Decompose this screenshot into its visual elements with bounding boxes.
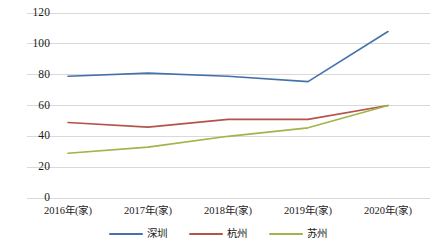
legend-item-深圳[interactable]: 深圳 xyxy=(109,229,167,240)
series-line-杭州 xyxy=(68,106,388,128)
legend-label: 苏州 xyxy=(307,229,327,240)
series-lines xyxy=(68,32,388,154)
chart-legend: 深圳杭州苏州 xyxy=(0,224,436,244)
x-axis-labels: 2016年(家)2017年(家)2018年(家)2019年(家)2020年(家) xyxy=(0,202,436,224)
legend-swatch-icon xyxy=(189,233,223,235)
legend-item-杭州[interactable]: 杭州 xyxy=(189,229,247,240)
y-axis-tick-label: 100 xyxy=(4,38,50,50)
x-axis-tick-label: 2019年(家) xyxy=(284,206,332,217)
y-axis-tick-label: 120 xyxy=(4,7,50,19)
line-chart: 020406080100120 2016年(家)2017年(家)2018年(家)… xyxy=(0,0,436,246)
y-axis-tick-label: 80 xyxy=(4,69,50,81)
x-axis-tick-label: 2016年(家) xyxy=(44,206,92,217)
series-line-苏州 xyxy=(68,106,388,154)
legend-swatch-icon xyxy=(269,233,303,235)
y-axis-tick-label: 60 xyxy=(4,100,50,112)
legend-swatch-icon xyxy=(109,233,143,235)
x-axis-tick-label: 2018年(家) xyxy=(204,206,252,217)
legend-label: 杭州 xyxy=(227,229,247,240)
series-line-深圳 xyxy=(68,32,388,82)
x-axis-tick-label: 2020年(家) xyxy=(364,206,412,217)
x-axis-tick-label: 2017年(家) xyxy=(124,206,172,217)
gridlines xyxy=(27,13,430,198)
legend-label: 深圳 xyxy=(147,229,167,240)
y-axis-tick-label: 20 xyxy=(4,161,50,173)
legend-item-苏州[interactable]: 苏州 xyxy=(269,229,327,240)
y-axis-tick-label: 40 xyxy=(4,130,50,142)
